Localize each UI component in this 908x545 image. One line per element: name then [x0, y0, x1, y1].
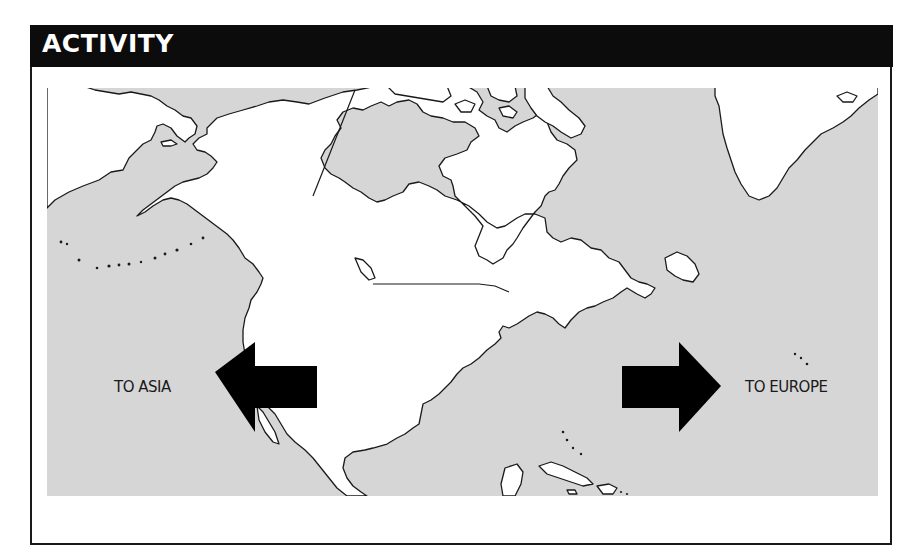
cuba: [539, 462, 593, 486]
arctic-island-2: [487, 88, 517, 102]
activity-title: ACTIVITY: [42, 29, 174, 58]
st-lawrence-island: [161, 140, 177, 146]
southampton-island: [499, 106, 517, 118]
arrow-right-icon: [622, 342, 721, 432]
jamaica: [567, 490, 577, 494]
hispaniola: [597, 484, 617, 494]
north-america-landmass: [137, 88, 655, 496]
north-america-map: TO ASIA TO EUROPE: [47, 88, 878, 496]
to-europe-label: TO EUROPE: [745, 378, 827, 396]
activity-header: ACTIVITY: [30, 25, 893, 67]
map-outline-graphic: [47, 88, 878, 496]
greenland: [715, 88, 878, 200]
to-asia-label: TO ASIA: [114, 378, 171, 396]
newfoundland: [665, 252, 699, 282]
yucatan: [501, 464, 523, 496]
